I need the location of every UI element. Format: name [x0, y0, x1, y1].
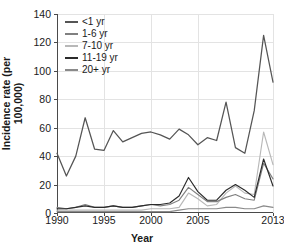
- y-tick-mark: [54, 99, 57, 100]
- legend-item-1-6-yr[interactable]: 1-6 yr: [65, 28, 118, 40]
- y-tick-label: 60: [3, 123, 51, 133]
- y-tick-label: 40: [3, 151, 51, 161]
- series-line: [57, 159, 273, 209]
- chart-legend: <1 yr1-6 yr7-10 yr11-19 yr20+ yr: [65, 16, 118, 76]
- x-tick-label: 2013: [261, 215, 284, 226]
- y-tick-label: 80: [3, 94, 51, 104]
- y-tick-label: 140: [3, 9, 51, 19]
- y-tick-mark: [54, 71, 57, 72]
- legend-label: 7-10 yr: [82, 40, 113, 51]
- series-line: [57, 132, 273, 210]
- legend-label: <1 yr: [82, 16, 105, 27]
- x-tick-label: 2005: [186, 215, 209, 226]
- legend-item-11-19-yr[interactable]: 11-19 yr: [65, 52, 118, 64]
- series-line: [57, 163, 273, 208]
- y-tick-mark: [54, 128, 57, 129]
- legend-label: 20+ yr: [82, 64, 110, 75]
- y-tick-mark: [54, 156, 57, 157]
- legend-line-swatch: [65, 69, 78, 71]
- y-tick-label: 0: [3, 208, 51, 218]
- legend-line-swatch: [65, 21, 78, 23]
- y-tick-mark: [54, 14, 57, 15]
- y-tick-label: 120: [3, 37, 51, 47]
- y-tick-label: 20: [3, 180, 51, 190]
- y-tick-mark: [54, 185, 57, 186]
- gridline-vertical: [273, 14, 274, 213]
- x-tick-label: 2000: [139, 215, 162, 226]
- legend-item-1-yr[interactable]: <1 yr: [65, 16, 118, 28]
- y-tick-label: 100: [3, 66, 51, 76]
- legend-line-swatch: [65, 45, 78, 47]
- x-tick-label: 1995: [92, 215, 115, 226]
- legend-item-7-10-yr[interactable]: 7-10 yr: [65, 40, 118, 52]
- legend-item-20-yr[interactable]: 20+ yr: [65, 64, 118, 76]
- incidence-rate-line-chart: Incidence rate (per 100,000) 02040608010…: [0, 0, 284, 252]
- legend-label: 1-6 yr: [82, 28, 108, 39]
- legend-line-swatch: [65, 33, 78, 35]
- x-axis-label: Year: [0, 232, 284, 244]
- legend-label: 11-19 yr: [82, 52, 118, 63]
- legend-line-swatch: [65, 57, 78, 59]
- y-tick-mark: [54, 42, 57, 43]
- x-tick-label: 1990: [45, 215, 68, 226]
